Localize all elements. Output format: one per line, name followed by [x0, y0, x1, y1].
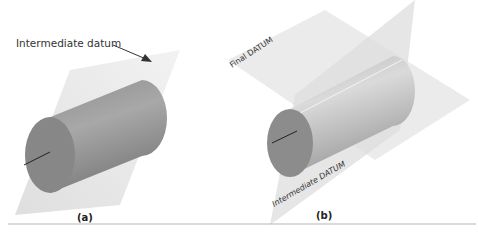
panel-b: Final DATUM Intermediate DATUM (b) [228, 0, 470, 225]
caption-b: (b) [316, 210, 332, 221]
datum-diagram: Intermediate datum (a) Final DATUM Inter… [0, 0, 478, 234]
cylinder-b-face [267, 109, 313, 177]
panel-a: Intermediate datum (a) [15, 37, 180, 223]
intermediate-datum-label: Intermediate datum [16, 37, 121, 49]
arrow-line [113, 45, 146, 59]
cylinder-a-face [25, 117, 75, 193]
caption-a: (a) [77, 212, 93, 223]
